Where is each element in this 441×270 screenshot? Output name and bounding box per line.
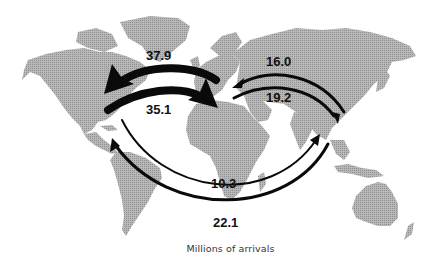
india bbox=[290, 112, 314, 150]
label-asia-to-americas: 22.1 bbox=[213, 215, 238, 230]
indonesia bbox=[334, 164, 384, 178]
southeast-asia bbox=[330, 140, 350, 160]
madagascar bbox=[258, 172, 266, 192]
north-america bbox=[22, 48, 150, 134]
asia bbox=[232, 28, 416, 140]
caribbean bbox=[100, 125, 118, 131]
new-zealand bbox=[404, 222, 414, 240]
south-america bbox=[110, 152, 162, 236]
arrowhead-americas-to-asia bbox=[310, 134, 320, 146]
label-europe-to-americas: 37.9 bbox=[146, 48, 171, 63]
unit-caption: Millions of arrivals bbox=[0, 243, 441, 254]
label-americas-to-europe: 35.1 bbox=[146, 102, 171, 117]
label-americas-to-asia: 10.3 bbox=[211, 176, 236, 191]
label-asia-to-europe: 16.0 bbox=[266, 54, 291, 69]
world-flow-map: 37.9 35.1 16.0 19.2 10.3 22.1 bbox=[0, 0, 441, 270]
label-europe-to-asia: 19.2 bbox=[266, 90, 291, 105]
australia bbox=[352, 182, 398, 226]
map-landmasses bbox=[22, 16, 416, 240]
